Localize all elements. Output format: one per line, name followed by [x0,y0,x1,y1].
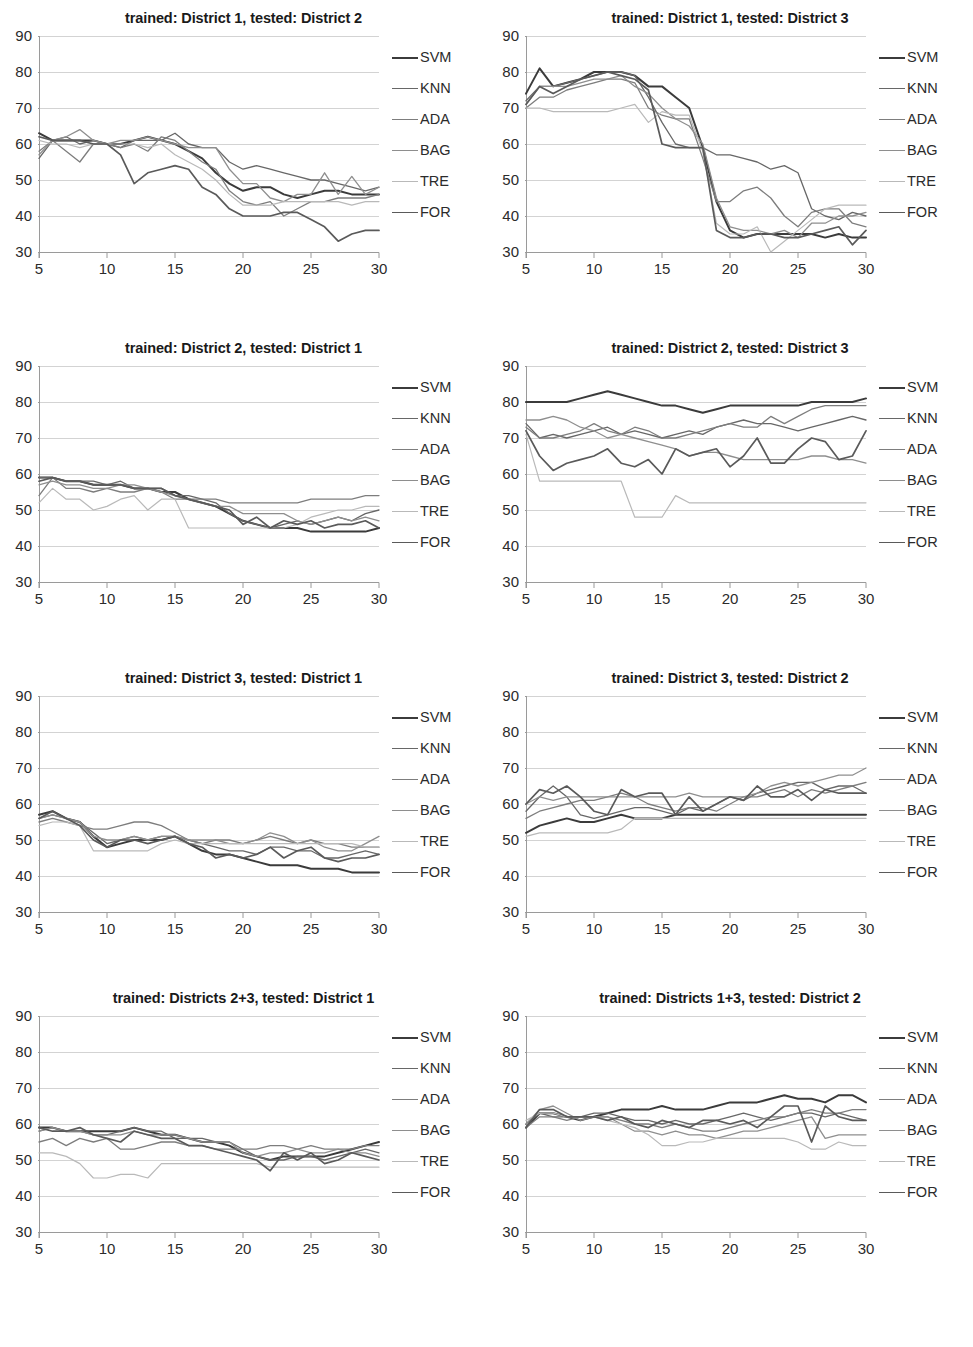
legend-item-tre[interactable]: TRE [392,166,484,197]
y-tick-label: 40 [489,537,519,554]
legend-item-svm[interactable]: SVM [392,42,484,73]
chart-title: trained: District 2, tested: District 1 [0,330,487,356]
legend-swatch-for [392,212,418,213]
x-tick-label: 30 [851,1240,881,1257]
legend-label-tre: TRE [420,174,449,189]
x-tick-label: 15 [160,590,190,607]
x-tick-label: 15 [647,590,677,607]
legend-item-ada[interactable]: ADA [879,434,971,465]
legend-item-bag[interactable]: BAG [392,135,484,166]
y-tick-label: 50 [489,501,519,518]
legend-item-bag[interactable]: BAG [879,135,971,166]
legend-item-svm[interactable]: SVM [879,372,971,403]
legend-item-svm[interactable]: SVM [392,1022,484,1053]
y-tick-label: 30 [489,243,519,260]
x-tick-label: 5 [24,260,54,277]
series-line-tre [39,1153,379,1178]
legend-label-svm: SVM [420,1030,451,1045]
legend-item-ada[interactable]: ADA [392,434,484,465]
legend-item-tre[interactable]: TRE [392,496,484,527]
legend-item-for[interactable]: FOR [879,197,971,228]
legend-item-for[interactable]: FOR [392,857,484,888]
legend-item-for[interactable]: FOR [392,197,484,228]
legend-item-svm[interactable]: SVM [392,702,484,733]
legend-label-knn: KNN [420,1061,451,1076]
legend-item-knn[interactable]: KNN [879,403,971,434]
legend-item-ada[interactable]: ADA [392,104,484,135]
legend-item-ada[interactable]: ADA [879,104,971,135]
legend-item-tre[interactable]: TRE [879,826,971,857]
legend-item-knn[interactable]: KNN [879,73,971,104]
legend-item-svm[interactable]: SVM [879,702,971,733]
y-tick-label: 50 [489,1151,519,1168]
legend-item-for[interactable]: FOR [392,527,484,558]
plot-area [38,366,378,582]
legend-item-for[interactable]: FOR [392,1177,484,1208]
legend-item-tre[interactable]: TRE [392,1146,484,1177]
y-tick-label: 50 [2,171,32,188]
legend-swatch-knn [879,88,905,89]
y-tick-label: 50 [489,831,519,848]
legend-item-for[interactable]: FOR [879,527,971,558]
x-tick-label: 30 [364,920,394,937]
legend-item-bag[interactable]: BAG [879,795,971,826]
legend-item-for[interactable]: FOR [879,1177,971,1208]
legend-item-bag[interactable]: BAG [392,795,484,826]
legend-swatch-ada [879,1099,905,1100]
legend-label-tre: TRE [907,504,936,519]
legend: SVMKNNADABAGTREFOR [392,372,484,558]
legend-item-svm[interactable]: SVM [879,1022,971,1053]
chart-title: trained: District 3, tested: District 2 [487,660,973,686]
legend-item-svm[interactable]: SVM [392,372,484,403]
chart-title: trained: Districts 2+3, tested: District… [0,980,487,1006]
legend-item-ada[interactable]: ADA [879,764,971,795]
legend-item-bag[interactable]: BAG [392,465,484,496]
legend-label-tre: TRE [907,834,936,849]
x-tick-label: 5 [511,1240,541,1257]
series-line-bag [526,76,866,238]
legend-label-ada: ADA [420,1092,450,1107]
series-line-for [526,431,866,474]
legend-item-tre[interactable]: TRE [879,496,971,527]
legend-label-svm: SVM [907,1030,938,1045]
legend-item-ada[interactable]: ADA [392,764,484,795]
legend-item-tre[interactable]: TRE [879,166,971,197]
legend-item-for[interactable]: FOR [879,857,971,888]
legend-swatch-tre [879,841,905,842]
legend-item-svm[interactable]: SVM [879,42,971,73]
legend-swatch-svm [879,717,905,719]
series-line-ada [526,79,866,227]
legend-item-ada[interactable]: ADA [879,1084,971,1115]
legend-item-knn[interactable]: KNN [392,403,484,434]
y-tick-label: 60 [489,135,519,152]
y-tick-label: 60 [489,1115,519,1132]
y-tick-label: 90 [489,1007,519,1024]
y-tick-label: 80 [2,723,32,740]
series-line-tre [39,488,379,528]
x-tick-label: 30 [364,260,394,277]
legend-item-bag[interactable]: BAG [879,465,971,496]
y-tick-label: 70 [489,429,519,446]
legend-item-knn[interactable]: KNN [392,1053,484,1084]
y-tick-label: 80 [489,393,519,410]
legend-swatch-for [879,872,905,873]
y-tick-label: 90 [489,357,519,374]
legend-item-knn[interactable]: KNN [879,733,971,764]
legend-label-for: FOR [907,205,938,220]
legend-item-bag[interactable]: BAG [879,1115,971,1146]
legend-label-svm: SVM [907,50,938,65]
legend-item-knn[interactable]: KNN [392,733,484,764]
legend-item-knn[interactable]: KNN [879,1053,971,1084]
legend-item-ada[interactable]: ADA [392,1084,484,1115]
legend-item-tre[interactable]: TRE [879,1146,971,1177]
legend-swatch-tre [392,181,418,182]
legend-label-for: FOR [420,535,451,550]
legend-label-ada: ADA [907,112,937,127]
chart-title: trained: District 1, tested: District 3 [487,0,973,26]
legend-swatch-tre [392,841,418,842]
legend-label-svm: SVM [907,710,938,725]
legend: SVMKNNADABAGTREFOR [392,702,484,888]
legend-item-tre[interactable]: TRE [392,826,484,857]
legend-item-knn[interactable]: KNN [392,73,484,104]
legend-item-bag[interactable]: BAG [392,1115,484,1146]
